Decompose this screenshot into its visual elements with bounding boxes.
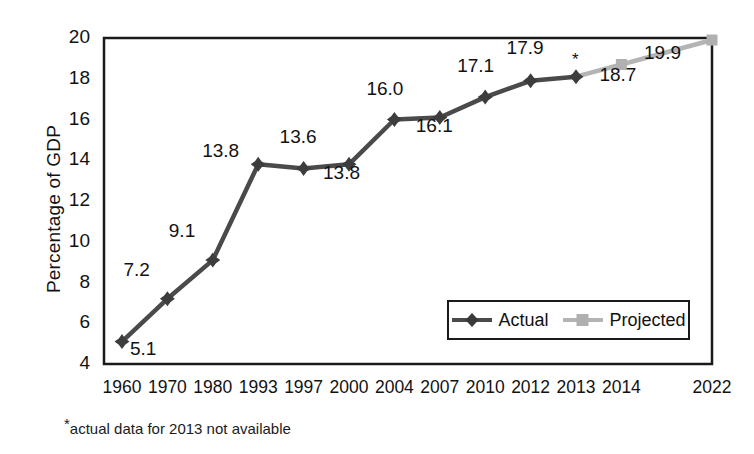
- y-axis-tick-label: 18: [48, 67, 90, 89]
- data-point-value-label: 18.7: [599, 64, 636, 86]
- y-axis-tick-label: 12: [48, 189, 90, 211]
- footnote-text: actual data for 2013 not available: [70, 420, 291, 437]
- legend-label-actual: Actual: [498, 310, 548, 331]
- x-axis-tick-label: 1960: [100, 377, 144, 398]
- x-axis-tick-label: 1980: [191, 377, 235, 398]
- data-point-value-label: 13.6: [280, 126, 317, 148]
- x-axis-tick-label: 2014: [599, 377, 643, 398]
- x-axis-tick-label: 1997: [282, 377, 326, 398]
- y-axis-tick-label: 6: [48, 311, 90, 333]
- x-axis-tick-label: 2012: [509, 377, 553, 398]
- y-axis-tick-label: 8: [48, 271, 90, 293]
- data-point-value-label: 9.1: [169, 220, 195, 242]
- data-point-value-label: 13.8: [202, 140, 239, 162]
- data-point-marker-diamond: [523, 73, 538, 88]
- data-point-marker-diamond: [251, 157, 266, 172]
- x-axis-tick-label: 2022: [690, 377, 734, 398]
- data-point-value-label: 16.0: [366, 78, 403, 100]
- y-axis-tick-label: 4: [48, 352, 90, 374]
- x-axis-tick-label: 1970: [145, 377, 189, 398]
- data-point-marker-square: [707, 35, 718, 46]
- data-point-value-label: 19.9: [644, 42, 681, 64]
- legend-swatch-projected-icon: [562, 310, 604, 330]
- x-axis-tick-label: 2007: [418, 377, 462, 398]
- chart-legend: Actual Projected: [447, 300, 690, 340]
- legend-item-projected: Projected: [562, 310, 685, 331]
- x-axis-tick-label: 1993: [236, 377, 280, 398]
- data-point-value-label: 17.1: [457, 55, 494, 77]
- legend-label-projected: Projected: [609, 310, 685, 331]
- data-point-value-label: 13.8: [323, 162, 360, 184]
- data-point-value-label: 7.2: [123, 259, 149, 281]
- y-axis-tick-label: 10: [48, 230, 90, 252]
- y-axis-tick-label: 16: [48, 108, 90, 130]
- legend-swatch-actual-icon: [451, 310, 493, 330]
- x-axis-tick-label: 2000: [327, 377, 371, 398]
- data-point-value-label: 16.1: [416, 115, 453, 137]
- data-point-value-label: 17.9: [507, 37, 544, 59]
- asterisk-annotation-icon: *: [572, 51, 579, 68]
- x-axis-tick-label: 2010: [463, 377, 507, 398]
- legend-item-actual: Actual: [451, 310, 548, 331]
- data-point-marker-diamond: [569, 69, 584, 84]
- data-point-marker-diamond: [296, 161, 311, 176]
- x-axis-tick-label: 2013: [554, 377, 598, 398]
- chart-footnote: *actual data for 2013 not available: [64, 415, 291, 437]
- y-axis-tick-label: 20: [48, 26, 90, 48]
- y-axis-tick-label: 14: [48, 148, 90, 170]
- data-point-marker-diamond: [478, 90, 493, 105]
- data-point-value-label: 5.1: [130, 338, 156, 360]
- x-axis-tick-label: 2004: [372, 377, 416, 398]
- chart-figure: Percentage of GDP 201816141210864 196019…: [0, 0, 754, 454]
